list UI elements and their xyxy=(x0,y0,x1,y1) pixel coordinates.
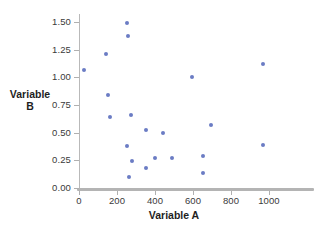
y-tick-mark xyxy=(74,188,79,189)
x-tick-label: 1000 xyxy=(249,196,289,206)
y-tick-label: 0.00 xyxy=(31,183,71,193)
data-point xyxy=(201,171,205,175)
y-tick-label: 1.00 xyxy=(31,72,71,82)
y-axis-line xyxy=(79,14,80,188)
y-tick-mark xyxy=(74,133,79,134)
y-tick-label: 0.50 xyxy=(31,128,71,138)
x-axis-line xyxy=(77,188,314,191)
data-point xyxy=(209,123,213,127)
data-point xyxy=(125,21,129,25)
x-tick-label: 200 xyxy=(97,196,137,206)
y-tick-mark xyxy=(74,105,79,106)
y-axis-label: Variable B xyxy=(2,88,58,112)
data-point xyxy=(104,52,108,56)
data-point xyxy=(161,131,165,135)
x-tick-label: 0 xyxy=(59,196,99,206)
y-tick-mark xyxy=(74,50,79,51)
y-tick-mark xyxy=(74,22,79,23)
y-tick-mark xyxy=(74,77,79,78)
y-axis-label-line1: Variable xyxy=(10,88,50,100)
data-point xyxy=(125,144,129,148)
y-tick-mark xyxy=(74,160,79,161)
x-tick-label: 800 xyxy=(211,196,251,206)
x-axis-label: Variable A xyxy=(79,210,269,222)
y-tick-label: 1.50 xyxy=(31,17,71,27)
plot-area xyxy=(79,14,269,188)
x-tick-label: 600 xyxy=(173,196,213,206)
y-axis-label-line2: B xyxy=(2,100,58,112)
data-point xyxy=(82,68,86,72)
data-point xyxy=(106,93,110,97)
scatter-plot-figure: 0.000.250.500.751.001.251.50 02004006008… xyxy=(0,0,319,228)
y-tick-label: 1.25 xyxy=(31,45,71,55)
y-tick-label: 0.25 xyxy=(31,155,71,165)
x-tick-label: 400 xyxy=(135,196,175,206)
data-point xyxy=(201,154,205,158)
